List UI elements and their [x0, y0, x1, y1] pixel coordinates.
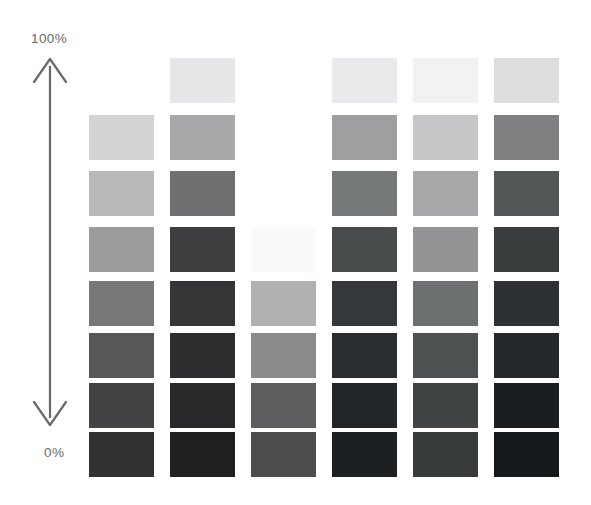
swatch-c1-r8: [89, 432, 154, 477]
swatch-c6-r7: [494, 383, 559, 428]
swatch-c4-r3: [332, 171, 397, 216]
swatch-c5-r2: [413, 115, 478, 160]
swatch-c1-r2: [89, 115, 154, 160]
swatch-c1-r4: [89, 227, 154, 272]
swatch-c3-r6: [251, 333, 316, 378]
swatch-c3-r5: [251, 281, 316, 326]
swatch-c6-r6: [494, 333, 559, 378]
swatch-c4-r4: [332, 227, 397, 272]
swatch-c2-r8: [170, 432, 235, 477]
swatch-c6-r3: [494, 171, 559, 216]
swatch-c6-r4: [494, 227, 559, 272]
swatch-c2-r7: [170, 383, 235, 428]
swatch-c6-r2: [494, 115, 559, 160]
swatch-c5-r3: [413, 171, 478, 216]
swatch-c4-r8: [332, 432, 397, 477]
swatch-c6-r1: [494, 58, 559, 103]
swatch-c1-r3: [89, 171, 154, 216]
swatch-c2-r3: [170, 171, 235, 216]
swatch-c4-r5: [332, 281, 397, 326]
swatch-c4-r6: [332, 333, 397, 378]
swatch-c3-r8: [251, 432, 316, 477]
swatch-c4-r2: [332, 115, 397, 160]
swatch-c1-r6: [89, 333, 154, 378]
swatch-c5-r6: [413, 333, 478, 378]
swatch-c4-r1: [332, 58, 397, 103]
swatch-c2-r2: [170, 115, 235, 160]
swatch-c3-r7: [251, 383, 316, 428]
swatch-c1-r7: [89, 383, 154, 428]
tone-chart-canvas: 100% 0%: [0, 0, 591, 505]
swatch-c5-r1: [413, 58, 478, 103]
swatch-grid: [0, 0, 591, 505]
swatch-c5-r4: [413, 227, 478, 272]
swatch-c2-r6: [170, 333, 235, 378]
swatch-c6-r8: [494, 432, 559, 477]
swatch-c5-r7: [413, 383, 478, 428]
swatch-c6-r5: [494, 281, 559, 326]
swatch-c2-r4: [170, 227, 235, 272]
swatch-c2-r1: [170, 58, 235, 103]
swatch-c4-r7: [332, 383, 397, 428]
swatch-c5-r8: [413, 432, 478, 477]
swatch-c3-r4: [251, 227, 316, 272]
swatch-c1-r5: [89, 281, 154, 326]
swatch-c5-r5: [413, 281, 478, 326]
swatch-c2-r5: [170, 281, 235, 326]
